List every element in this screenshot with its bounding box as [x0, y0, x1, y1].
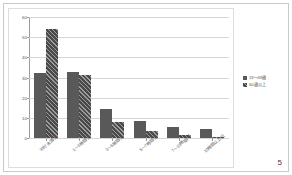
gridline [29, 138, 229, 139]
x-axis-label-cell: 7〜10時間/日 [162, 141, 195, 175]
bar-group [62, 17, 95, 138]
legend-label: 60歳以上 [249, 82, 266, 87]
bar [79, 75, 91, 138]
bar [34, 73, 46, 138]
bar [167, 127, 179, 138]
slide-canvas: 0102030405060 30分未満/日1〜3時間/日3〜5時間/日5〜7時間… [0, 0, 292, 175]
bar [134, 121, 146, 138]
x-axis-label-cell: 5〜7時間/日 [129, 141, 162, 175]
bar [200, 129, 212, 138]
plot-area: 0102030405060 [29, 17, 229, 139]
x-axis-labels: 30分未満/日1〜3時間/日3〜5時間/日5〜7時間/日7〜10時間/日10時間… [29, 141, 229, 175]
bar [46, 29, 58, 138]
x-axis-label-cell: 10時間以上/日 [196, 141, 229, 175]
legend-item[interactable]: 19〜59歳 [243, 75, 287, 80]
bar-group [162, 17, 195, 138]
bar-group [29, 17, 62, 138]
bar-group [196, 17, 229, 138]
bar-group [129, 17, 162, 138]
bar [100, 109, 112, 138]
bar-groups [29, 17, 229, 138]
y-axis-tick-label: 60 [9, 15, 27, 20]
y-axis-tick-label: 10 [9, 115, 27, 120]
legend-label: 19〜59歳 [249, 75, 266, 80]
page-number: 5 [278, 158, 282, 167]
legend-swatch-icon [243, 83, 247, 87]
chart-container: 0102030405060 30分未満/日1〜3時間/日3〜5時間/日5〜7時間… [8, 8, 234, 168]
x-axis-label-cell: 1〜3時間/日 [62, 141, 95, 175]
legend-swatch-icon [243, 76, 247, 80]
y-axis-tick-mark [27, 138, 29, 139]
bar [67, 72, 79, 138]
bar-group [96, 17, 129, 138]
y-axis-tick-label: 20 [9, 95, 27, 100]
chart-legend: 19〜59歳60歳以上 [243, 75, 287, 89]
y-axis-tick-label: 50 [9, 35, 27, 40]
y-axis-tick-label: 40 [9, 55, 27, 60]
x-axis-label-cell: 30分未満/日 [29, 141, 62, 175]
x-axis-label-cell: 3〜5時間/日 [96, 141, 129, 175]
legend-item[interactable]: 60歳以上 [243, 82, 287, 87]
y-axis-tick-label: 30 [9, 75, 27, 80]
y-axis-tick-label: 0 [9, 136, 27, 141]
